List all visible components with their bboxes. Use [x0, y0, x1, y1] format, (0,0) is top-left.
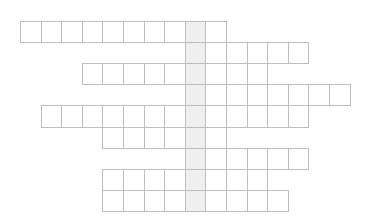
- grid-cell-r7-c8[interactable]: [185, 169, 206, 191]
- grid-cell-r8-c4[interactable]: [102, 190, 124, 212]
- grid-cell-r8-c11[interactable]: [247, 190, 268, 212]
- grid-cell-r8-c12[interactable]: [267, 190, 289, 212]
- grid-cell-r4-c13[interactable]: [288, 105, 309, 128]
- grid-cell-r5-c4[interactable]: [102, 127, 124, 149]
- grid-cell-r4-c5[interactable]: [123, 105, 145, 128]
- grid-cell-r1-c8[interactable]: [185, 42, 206, 64]
- grid-cell-r0-c3[interactable]: [82, 21, 103, 43]
- grid-cell-r7-c11[interactable]: [247, 169, 268, 191]
- grid-cell-r8-c6[interactable]: [144, 190, 165, 212]
- grid-cell-r3-c15[interactable]: [329, 84, 351, 106]
- grid-cell-r0-c8[interactable]: [185, 21, 206, 43]
- grid-cell-r2-c8[interactable]: [185, 63, 206, 85]
- grid-cell-r4-c4[interactable]: [102, 105, 124, 128]
- grid-cell-r3-c12[interactable]: [267, 84, 289, 106]
- grid-cell-r6-c12[interactable]: [267, 148, 289, 170]
- grid-cell-r3-c9[interactable]: [205, 84, 227, 106]
- grid-cell-r6-c9[interactable]: [205, 148, 227, 170]
- grid-cell-r5-c7[interactable]: [164, 127, 186, 149]
- grid-cell-r5-c5[interactable]: [123, 127, 145, 149]
- grid-cell-r1-c12[interactable]: [267, 42, 289, 64]
- grid-cell-r8-c5[interactable]: [123, 190, 145, 212]
- grid-cell-r4-c12[interactable]: [267, 105, 289, 128]
- grid-cell-r7-c7[interactable]: [164, 169, 186, 191]
- grid-cell-r5-c9[interactable]: [205, 127, 227, 149]
- grid-cell-r2-c10[interactable]: [226, 63, 248, 85]
- grid-cell-r2-c6[interactable]: [144, 63, 165, 85]
- grid-cell-r4-c8[interactable]: [185, 105, 206, 128]
- grid-cell-r0-c7[interactable]: [164, 21, 186, 43]
- grid-cell-r4-c9[interactable]: [205, 105, 227, 128]
- grid-cell-r7-c9[interactable]: [205, 169, 227, 191]
- grid-cell-r8-c7[interactable]: [164, 190, 186, 212]
- grid-cell-r2-c4[interactable]: [102, 63, 124, 85]
- grid-cell-r6-c10[interactable]: [226, 148, 248, 170]
- grid-cell-r6-c8[interactable]: [185, 148, 206, 170]
- grid-cell-r0-c1[interactable]: [41, 21, 62, 43]
- grid-cell-r0-c5[interactable]: [123, 21, 145, 43]
- grid-cell-r4-c7[interactable]: [164, 105, 186, 128]
- grid-cell-r5-c6[interactable]: [144, 127, 165, 149]
- grid-cell-r2-c7[interactable]: [164, 63, 186, 85]
- grid-cell-r2-c5[interactable]: [123, 63, 145, 85]
- grid-cell-r0-c9[interactable]: [205, 21, 227, 43]
- grid-cell-r1-c11[interactable]: [247, 42, 268, 64]
- grid-cell-r5-c8[interactable]: [185, 127, 206, 149]
- grid-cell-r7-c5[interactable]: [123, 169, 145, 191]
- grid-cell-r7-c4[interactable]: [102, 169, 124, 191]
- grid-cell-r2-c9[interactable]: [205, 63, 227, 85]
- grid-cell-r2-c3[interactable]: [82, 63, 103, 85]
- grid-cell-r3-c11[interactable]: [247, 84, 268, 106]
- grid-cell-r0-c2[interactable]: [61, 21, 83, 43]
- grid-cell-r4-c6[interactable]: [144, 105, 165, 128]
- grid-cell-r4-c3[interactable]: [82, 105, 103, 128]
- grid-cell-r7-c6[interactable]: [144, 169, 165, 191]
- grid-cell-r1-c10[interactable]: [226, 42, 248, 64]
- grid-cell-r8-c10[interactable]: [226, 190, 248, 212]
- grid-cell-r4-c2[interactable]: [61, 105, 83, 128]
- grid-cell-r7-c10[interactable]: [226, 169, 248, 191]
- grid-cell-r6-c13[interactable]: [288, 148, 309, 170]
- grid-cell-r6-c11[interactable]: [247, 148, 268, 170]
- grid-cell-r4-c1[interactable]: [41, 105, 62, 128]
- grid-cell-r3-c13[interactable]: [288, 84, 309, 106]
- grid-cell-r8-c9[interactable]: [205, 190, 227, 212]
- grid-cell-r0-c6[interactable]: [144, 21, 165, 43]
- crossword-grid: [0, 0, 369, 218]
- grid-cell-r3-c8[interactable]: [185, 84, 206, 106]
- grid-cell-r4-c10[interactable]: [226, 105, 248, 128]
- grid-cell-r3-c14[interactable]: [308, 84, 330, 106]
- grid-cell-r3-c10[interactable]: [226, 84, 248, 106]
- grid-cell-r1-c9[interactable]: [205, 42, 227, 64]
- grid-cell-r4-c11[interactable]: [247, 105, 268, 128]
- grid-cell-r1-c13[interactable]: [288, 42, 309, 64]
- grid-cell-r0-c4[interactable]: [102, 21, 124, 43]
- grid-cell-r0-c0[interactable]: [20, 21, 42, 43]
- grid-cell-r2-c11[interactable]: [247, 63, 268, 85]
- grid-cell-r8-c8[interactable]: [185, 190, 206, 212]
